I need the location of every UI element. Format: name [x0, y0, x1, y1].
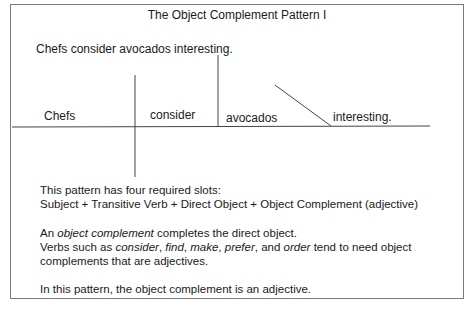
conclusion: In this pattern, the object complement i… [40, 282, 311, 297]
verbs-line-2: complements that are adjectives. [40, 254, 208, 269]
verb-example: prefer [225, 241, 255, 253]
def-term: object complement [57, 227, 154, 239]
verb-example: order [284, 241, 311, 253]
verbs-suffix: tend to need object [310, 241, 411, 253]
slots-intro: This pattern has four required slots: [40, 183, 221, 198]
diagram-verb: consider [150, 108, 195, 122]
diagram-subject: Chefs [44, 109, 75, 123]
diagram-object-complement: interesting. [333, 110, 392, 124]
verb-example: consider [115, 241, 158, 253]
definition-line: An object complement completes the direc… [40, 226, 297, 241]
verb-example: make [190, 241, 218, 253]
verbs-line: Verbs such as consider, find, make, pref… [40, 240, 411, 255]
def-suffix: completes the direct object. [154, 227, 297, 239]
verbs-prefix: Verbs such as [40, 241, 115, 253]
verb-example: find [165, 241, 184, 253]
def-prefix: An [40, 227, 57, 239]
slots-formula: Subject + Transitive Verb + Direct Objec… [40, 197, 418, 212]
diagram-direct-object: avocados [226, 111, 277, 125]
